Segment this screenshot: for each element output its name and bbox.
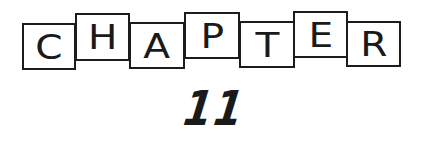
letter-box-t: T — [239, 21, 295, 68]
letter-c: C — [35, 30, 62, 64]
letter-box-a: A — [129, 22, 185, 69]
letter-a: A — [144, 29, 171, 63]
letter-box-e: E — [293, 11, 348, 58]
letter-p: P — [200, 19, 224, 53]
letter-box-r: R — [346, 21, 401, 67]
chapter-number: 11 — [181, 82, 239, 134]
letter-box-p: P — [184, 12, 240, 59]
letter-t: T — [255, 28, 279, 62]
letter-e: E — [308, 18, 333, 52]
letter-h: H — [88, 20, 117, 54]
letter-box-h: H — [75, 13, 130, 61]
letter-box-c: C — [22, 23, 76, 70]
letter-r: R — [360, 27, 387, 61]
